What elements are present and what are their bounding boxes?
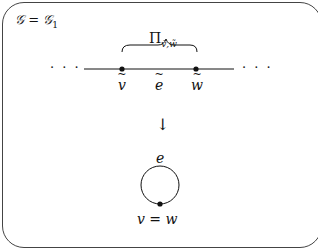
right-ellipsis: · · · xyxy=(242,60,273,75)
left-ellipsis: · · · xyxy=(50,60,81,75)
pi-label: Πṽ,w̃ xyxy=(149,30,177,49)
down-arrow-icon: ↓ xyxy=(156,115,169,134)
vertex-w-tilde-label: w xyxy=(191,78,203,92)
vertex-v-tilde-label: v xyxy=(118,78,126,92)
loop-edge xyxy=(141,166,179,204)
loop-edge-label: e xyxy=(156,151,164,165)
loop-vertex xyxy=(157,201,162,206)
edge-e-tilde-label: e xyxy=(155,78,163,92)
loop-vertex-label: v = w xyxy=(137,212,178,226)
